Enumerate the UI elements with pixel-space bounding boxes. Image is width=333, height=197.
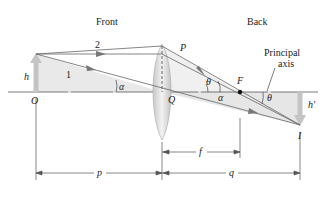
alpha-object-label: α: [119, 81, 125, 92]
focal-point-label: F: [236, 75, 244, 86]
focal-point-dot: [238, 90, 242, 94]
image-triangle-shade: [162, 92, 300, 125]
theta-image-label: θ: [267, 92, 272, 103]
ray-2-label: 2: [95, 39, 100, 50]
back-label: Back: [247, 16, 268, 27]
lens-center-label: Q: [168, 94, 176, 105]
focal-length-label: f: [199, 146, 203, 157]
object-height-label: h: [24, 71, 29, 82]
lens-ray-diagram: Front Back 2 1 h h' O Q P F I Principal …: [0, 0, 333, 197]
image-distance-label: q: [229, 167, 234, 178]
theta-lens-label: θ: [206, 76, 211, 87]
object-distance-label: p: [96, 167, 102, 178]
image-point-label: I: [297, 130, 302, 141]
principal-axis-pointer: [267, 68, 275, 91]
ray-1-arrowhead: [86, 65, 96, 71]
object-point-label: O: [31, 95, 38, 106]
principal-axis-label-line2: axis: [278, 58, 294, 69]
object-triangle-shade: [36, 54, 162, 92]
alpha-image-label: α: [218, 92, 224, 103]
front-label: Front: [96, 16, 118, 27]
ray-2-arrowhead: [96, 51, 106, 57]
image-height-label: h': [308, 99, 316, 110]
ray-1-label: 1: [66, 69, 71, 80]
lens-top-label: P: [179, 42, 186, 53]
principal-axis-label-line1: Principal: [264, 47, 300, 58]
